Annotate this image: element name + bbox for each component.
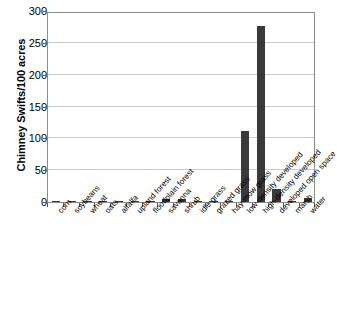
- y-tick-label: 200: [7, 70, 47, 81]
- y-tick-label: 150: [7, 102, 47, 113]
- y-tick-label: 300: [7, 6, 47, 17]
- y-tick-label: 100: [7, 133, 47, 144]
- y-tick-label: 0: [7, 197, 47, 208]
- y-axis-ticks: 050100150200250300: [0, 12, 47, 203]
- y-tick-label: 250: [7, 38, 47, 49]
- bar: [52, 201, 60, 202]
- x-tick-mark: [47, 203, 48, 207]
- y-tick-label: 50: [7, 165, 47, 176]
